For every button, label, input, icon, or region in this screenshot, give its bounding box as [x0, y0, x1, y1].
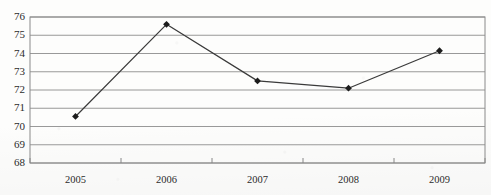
x-axis-tick-label: 2006	[144, 174, 190, 185]
gridline-group	[30, 17, 485, 163]
y-axis-tick-label: 71	[3, 102, 25, 113]
y-axis-tick-label: 76	[3, 11, 25, 22]
x-axis-tick-label: 2008	[326, 174, 372, 185]
data-line	[76, 24, 440, 116]
x-axis-tick-label: 2007	[235, 174, 281, 185]
data-point-marker	[254, 77, 261, 84]
y-axis-tick-label: 75	[3, 29, 25, 40]
x-axis-tick-label: 2005	[53, 174, 99, 185]
y-axis-tick-label: 74	[3, 48, 25, 59]
y-axis-tick-label: 72	[3, 84, 25, 95]
y-axis-tick-label: 68	[3, 157, 25, 168]
plot-area	[0, 0, 491, 195]
x-axis-tick-label: 2009	[417, 174, 463, 185]
data-point-marker	[345, 85, 352, 92]
y-axis-tick-label: 70	[3, 121, 25, 132]
x-tick-group	[30, 158, 485, 163]
y-axis-tick-label: 73	[3, 66, 25, 77]
data-marker-group	[72, 21, 443, 120]
line-chart: 767574737271706968 20052006200720082009	[0, 0, 491, 195]
y-axis-tick-label: 69	[3, 139, 25, 150]
